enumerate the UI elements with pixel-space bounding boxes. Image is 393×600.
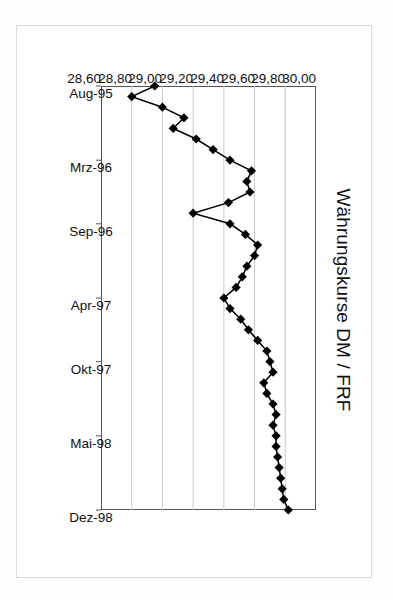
data-point-marker [271,442,280,451]
data-point-marker [242,177,251,186]
data-point-marker [274,463,283,472]
chart-figure: Währungskurse DM / FRF 30,0029,8029,6029… [32,30,362,570]
x-axis-tick-label: Mrz-96 [69,160,111,175]
data-point-marker [157,103,166,112]
data-point-marker [191,134,200,143]
gridlines [131,86,285,510]
data-point-marker [225,219,234,228]
rotated-figure-container: Währungskurse DM / FRF 30,0029,8029,6029… [32,30,362,570]
data-series-dm-frf [127,81,293,514]
data-point-marker [276,474,285,483]
data-point-marker [271,410,280,419]
x-axis-tick-label: Apr-97 [70,298,111,313]
y-axis-tick-label: 28,60 [47,71,101,86]
x-axis-tick-label: Dez-98 [69,510,113,525]
data-point-marker [245,187,254,196]
data-point-marker [127,92,136,101]
data-point-marker [268,399,277,408]
data-point-marker [249,251,258,260]
page: Währungskurse DM / FRF 30,0029,8029,6029… [0,0,393,600]
data-point-marker [283,505,292,514]
data-point-marker [279,495,288,504]
x-axis-tick-label: Aug-95 [69,86,113,101]
data-point-marker [271,431,280,440]
data-point-marker [223,198,232,207]
data-point-marker [268,421,277,430]
data-point-marker [273,452,282,461]
data-point-marker [265,357,274,366]
data-point-marker [237,272,246,281]
data-point-marker [188,209,197,218]
x-axis-tick-label: Mai-98 [70,436,111,451]
x-axis-tick-label: Sep-96 [69,224,113,239]
x-axis-tick-label: Okt-97 [70,362,111,377]
